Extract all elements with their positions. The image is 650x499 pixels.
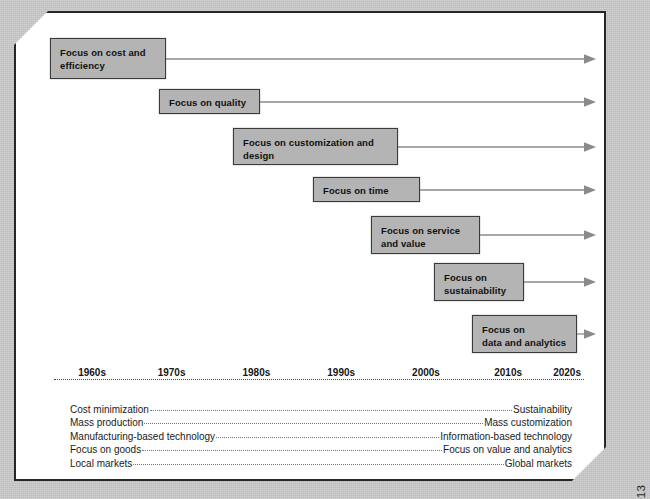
era-label-line-1: Focus on [444,271,523,284]
transition-from: Focus on goods [70,443,141,456]
era-label-line-1: Focus on [482,323,576,336]
era-label-line-2: design [243,149,397,162]
axis-dotted-line [54,379,584,380]
decade-label-2010s: 2010s [491,367,525,378]
era-arrow-sustainability [524,274,596,290]
era-box-sustainability[interactable]: Focus onsustainability [434,263,524,301]
era-label-line-2: data and analytics [482,336,576,349]
transition-from: Manufacturing-based technology [70,430,215,443]
decade-axis: 1960s1970s1980s1990s2000s2010s2020s [54,367,584,385]
era-box-customization-and-design[interactable]: Focus on customization anddesign [233,128,398,165]
figure-frame: Focus on cost andefficiencyFocus on qual… [14,11,606,481]
era-box-service-and-value[interactable]: Focus on serviceand value [371,216,480,254]
era-arrow-customization-and-design [398,139,596,155]
transition-from: Mass production [70,416,143,429]
era-box-data-and-analytics[interactable]: Focus ondata and analytics [472,315,577,353]
era-label-line-1: Focus on customization and [243,136,397,149]
transition-to: Global markets [505,457,572,470]
transition-row: Focus on goodsFocus on value and analyti… [70,443,572,456]
era-label-line-2: sustainability [444,284,523,297]
transition-row: Manufacturing-based technologyInformatio… [70,430,572,443]
transition-dot-leader [144,417,483,424]
transition-row: Mass productionMass customization [70,416,572,429]
era-arrow-service-and-value [480,227,596,243]
era-arrow-time [420,182,596,198]
transition-to: Sustainability [513,403,572,416]
transition-row: Local marketsGlobal markets [70,457,572,470]
era-label-line-1: Focus on service [381,224,479,237]
era-label-line-1: Focus on quality [169,96,259,109]
copyright-notice: © Cengage Learning 2013 [635,485,647,499]
transition-dot-leader [133,458,504,465]
era-label-line-2: efficiency [60,59,165,72]
transition-row: Cost minimizationSustainability [70,403,572,416]
era-arrow-data-and-analytics [577,326,596,342]
era-box-quality[interactable]: Focus on quality [159,89,260,114]
era-label-line-1: Focus on cost and [60,46,165,59]
decade-label-1970s: 1970s [155,367,189,378]
transition-to: Information-based technology [440,430,572,443]
era-label-line-1: Focus on time [323,184,419,197]
transition-dot-leader [142,444,442,451]
decade-label-1980s: 1980s [240,367,274,378]
timeline-diagram: Focus on cost andefficiencyFocus on qual… [14,11,606,481]
transition-from: Cost minimization [70,403,149,416]
era-arrow-cost-and-efficiency [166,51,596,67]
decade-label-1960s: 1960s [75,367,109,378]
transition-from: Local markets [70,457,132,470]
era-box-cost-and-efficiency[interactable]: Focus on cost andefficiency [50,38,166,79]
era-arrow-quality [260,94,596,110]
transition-to: Focus on value and analytics [443,443,572,456]
transition-dot-leader [216,431,439,438]
decade-label-2000s: 2000s [409,367,443,378]
decade-label-2020s: 2020s [550,367,584,378]
era-label-line-2: and value [381,237,479,250]
era-box-time[interactable]: Focus on time [313,177,420,202]
transitions-list: Cost minimizationSustainabilityMass prod… [70,403,572,470]
transition-to: Mass customization [484,416,572,429]
transition-dot-leader [150,404,512,411]
decade-label-1990s: 1990s [324,367,358,378]
